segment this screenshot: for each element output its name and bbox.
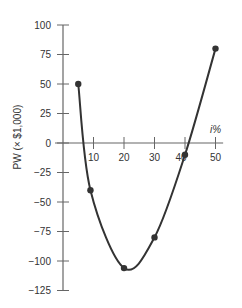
y-tick-label: 100: [34, 20, 51, 31]
y-tick-label: −25: [34, 167, 51, 178]
data-point: [121, 265, 127, 271]
data-point: [212, 45, 218, 51]
y-tick-label: −75: [34, 226, 51, 237]
y-tick-label: 0: [45, 138, 51, 149]
x-tick-label: 30: [149, 152, 161, 163]
data-point: [75, 81, 81, 87]
y-tick-label: 75: [40, 49, 52, 60]
y-axis-label: PW (× $1,000): [12, 105, 23, 170]
ticks: 1007550250−25−50−75−100−1251020304050: [28, 20, 221, 297]
y-tick-label: 50: [40, 79, 52, 90]
pw-chart: 1007550250−25−50−75−100−1251020304050 i%…: [0, 0, 242, 308]
y-tick-label: −50: [34, 197, 51, 208]
x-tick-label: 50: [210, 152, 222, 163]
y-tick-label: −100: [28, 256, 51, 267]
data-point: [151, 234, 157, 240]
x-tick-label: 10: [88, 152, 100, 163]
x-axis-label: i%: [210, 124, 221, 135]
axes: [55, 25, 223, 291]
x-tick-label: 20: [118, 152, 130, 163]
y-tick-label: 25: [40, 108, 52, 119]
data-point: [87, 187, 93, 193]
data-point: [182, 152, 188, 158]
y-tick-label: −125: [28, 285, 51, 296]
